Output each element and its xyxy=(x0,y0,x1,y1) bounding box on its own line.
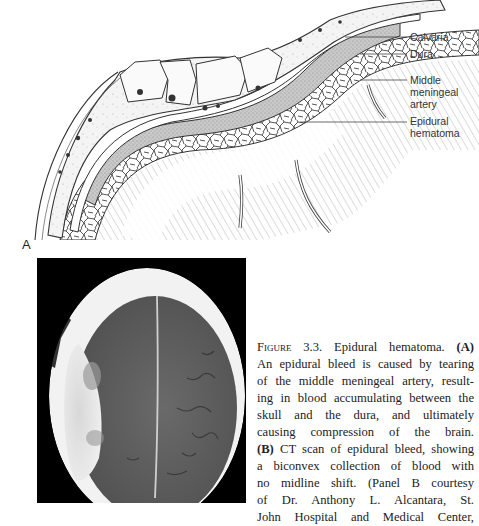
callout-text: artery xyxy=(410,98,458,110)
caption-line: ing in blood accumulating between the xyxy=(257,390,474,407)
ct-scan-drawing xyxy=(37,258,246,503)
skull-cross-section-drawing xyxy=(0,0,479,240)
caption-line: An epidural bleed is caused by tearing xyxy=(257,356,474,373)
callout-middle-meningeal-artery: Middle meningeal artery xyxy=(410,74,458,110)
figure-title: Epidural hematoma. xyxy=(334,340,445,354)
caption-title-line: Figure 3.3. Epidural hematoma. (A) xyxy=(257,339,474,356)
caption-line: no midline shift. (Panel B courtesy xyxy=(257,475,474,492)
panel-a-label: A xyxy=(22,237,31,252)
callout-calvaria: Calvaria xyxy=(410,31,449,43)
callout-text: Dura xyxy=(410,48,433,60)
figure-caption: Figure 3.3. Epidural hematoma. (A) An ep… xyxy=(257,339,474,526)
figure-word: Figure xyxy=(257,340,292,354)
caption-line: a biconvex collection of blood with xyxy=(257,458,474,475)
callout-text: Epidural xyxy=(410,115,460,127)
figure-number: 3.3. xyxy=(303,340,322,354)
caption-panel-b-line: (B) CT scan of epidural bleed, showing xyxy=(257,441,474,458)
callout-text: meningeal xyxy=(410,86,458,98)
caption-line: CT scan of epidural bleed, showing xyxy=(280,442,474,456)
callout-text: hematoma xyxy=(410,127,460,139)
caption-line: skull and the dura, and ultimately xyxy=(257,407,474,424)
callout-epidural-hematoma: Epidural hematoma xyxy=(410,115,460,139)
panel-a-marker: (A) xyxy=(457,340,474,354)
caption-line: causing compression of the brain. xyxy=(257,424,474,441)
ct-scan-image xyxy=(37,258,246,503)
callout-text: Calvaria xyxy=(410,31,449,43)
callout-text: Middle xyxy=(410,74,458,86)
caption-line: John Hospital and Medical Center, xyxy=(257,509,474,526)
panel-b-marker: (B) xyxy=(257,442,274,456)
epidural-hematoma-illustration xyxy=(0,0,479,240)
callout-dura: Dura xyxy=(410,48,433,60)
caption-line: of the middle meningeal artery, result- xyxy=(257,373,474,390)
caption-line: of Dr. Anthony L. Alcantara, St. xyxy=(257,492,474,509)
